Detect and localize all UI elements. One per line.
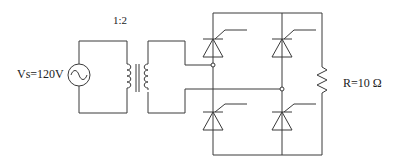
ac-source-icon xyxy=(68,64,90,86)
transformer-ratio-label: 1:2 xyxy=(113,14,127,26)
bridge-wiring xyxy=(213,13,322,155)
resistor-icon xyxy=(316,64,328,98)
secondary-circuit xyxy=(148,41,282,113)
circuit-diagram xyxy=(0,0,397,166)
thyristor-lower-left-icon xyxy=(203,104,247,130)
thyristor-upper-right-icon xyxy=(272,30,316,57)
source-voltage-label: Vs=120V xyxy=(17,67,64,82)
thyristor-upper-left-icon xyxy=(203,30,247,57)
thyristor-lower-right-icon xyxy=(272,104,316,130)
node-right xyxy=(280,87,284,91)
node-left xyxy=(211,63,215,67)
load-resistance-label: R=10 Ω xyxy=(343,76,382,91)
transformer-icon xyxy=(127,64,148,92)
